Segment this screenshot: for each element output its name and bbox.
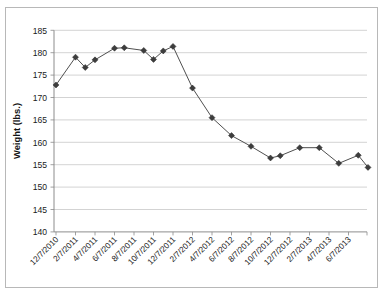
data-point-marker bbox=[121, 45, 127, 51]
y-tick-label: 140 bbox=[33, 227, 48, 237]
data-point-marker bbox=[268, 155, 274, 161]
weight-series-line bbox=[56, 46, 368, 167]
y-tick-marks bbox=[51, 30, 55, 232]
data-point-marker bbox=[170, 43, 176, 49]
y-tick-label: 165 bbox=[33, 115, 48, 125]
data-point-marker bbox=[190, 85, 196, 91]
y-tick-labels: 185 180 175 170 165 160 155 150 145 140 bbox=[33, 26, 48, 238]
y-tick-label: 150 bbox=[33, 182, 48, 192]
y-tick-label: 180 bbox=[33, 48, 48, 58]
y-tick-label: 145 bbox=[33, 205, 48, 215]
y-tick-label: 185 bbox=[33, 26, 48, 36]
y-tick-label: 170 bbox=[33, 93, 48, 103]
chart-frame: 185 180 175 170 165 160 155 150 145 140 … bbox=[5, 7, 378, 288]
data-point-marker bbox=[297, 145, 303, 151]
y-tick-label: 155 bbox=[33, 160, 48, 170]
screenshot-root: 185 180 175 170 165 160 155 150 145 140 … bbox=[0, 0, 383, 294]
data-point-marker bbox=[112, 45, 118, 51]
y-tick-label: 160 bbox=[33, 138, 48, 148]
weight-line-chart: 185 180 175 170 165 160 155 150 145 140 … bbox=[6, 8, 379, 289]
x-tick-labels: 12/7/2010 2/7/2011 4/7/2011 6/7/2011 8/7… bbox=[28, 235, 353, 267]
data-point-marker bbox=[248, 143, 254, 149]
y-axis-title: Weight (lbs.) bbox=[11, 103, 22, 159]
gridlines bbox=[54, 30, 367, 209]
x-tick-marks bbox=[56, 232, 367, 236]
data-point-marker bbox=[277, 153, 283, 159]
y-tick-label: 175 bbox=[33, 70, 48, 80]
